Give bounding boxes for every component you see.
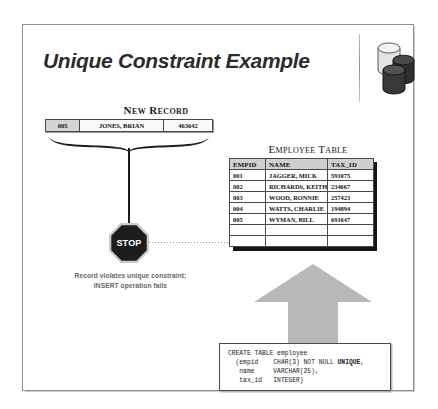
cell-empty (328, 225, 374, 236)
violation-caption-line2: INSERT operation fails (43, 281, 218, 291)
new-record-label: New Record (81, 104, 231, 116)
cell-name: WYMAN, BILL (266, 214, 328, 225)
employee-table-body: 001JAGGER, MICK591075002RICHARDS, KEITH2… (230, 170, 374, 247)
cell-empid: 003 (230, 192, 266, 203)
table-row-empty (230, 225, 374, 236)
table-row: 005WYMAN, BILL691647 (230, 214, 374, 225)
violation-caption-line1: Record violates unique constraint; (43, 271, 218, 281)
cell-empid: 001 (230, 170, 266, 181)
cell-empid: 002 (230, 181, 266, 192)
cell-taxid: 234667 (328, 181, 374, 192)
new-record-taxid: 463642 (164, 120, 212, 131)
new-record-name: JONES, BRIAN (80, 120, 164, 131)
cell-empty (230, 225, 266, 236)
cell-taxid: 257423 (328, 192, 374, 203)
cell-taxid: 194894 (328, 203, 374, 214)
page-title: Unique Constraint Example (43, 49, 310, 73)
cell-empty (328, 236, 374, 247)
cell-taxid: 691647 (328, 214, 374, 225)
column-header-name: NAME (266, 159, 328, 170)
table-row: 002RICHARDS, KEITH234667 (230, 181, 374, 192)
table-header-row: EMPID NAME TAX_ID (230, 159, 374, 170)
new-record-row: 005 JONES, BRIAN 463642 (45, 119, 213, 132)
sql-unique-keyword: UNIQUE (338, 359, 361, 366)
table-row-empty (230, 236, 374, 247)
table-row: 004WATTS, CHARLIE194894 (230, 203, 374, 214)
column-header-empid: EMPID (230, 159, 266, 170)
new-record-empid: 005 (46, 120, 80, 131)
cell-empid: 005 (230, 214, 266, 225)
cell-name: RICHARDS, KEITH (266, 181, 328, 192)
employee-table-title: Employee Table (228, 143, 388, 155)
sql-statement-box: CREATE TABLE employee (empid CHAR(3) NOT… (219, 343, 391, 391)
cell-name: WATTS, CHARLIE (266, 203, 328, 214)
column-header-taxid: TAX_ID (328, 159, 374, 170)
table-row: 001JAGGER, MICK591075 (230, 170, 374, 181)
employee-table-wrapper: EMPID NAME TAX_ID 001JAGGER, MICK5910750… (229, 158, 373, 247)
cell-empty (230, 236, 266, 247)
database-cylinders-icon (373, 37, 417, 99)
cell-name: WOOD, RONNIE (266, 192, 328, 203)
header-divider (359, 34, 360, 102)
cell-empid: 004 (230, 203, 266, 214)
up-arrow-icon (253, 262, 373, 352)
cell-empty (266, 236, 328, 247)
cell-taxid: 591075 (328, 170, 374, 181)
stop-sign-icon (109, 223, 149, 263)
brace-stem (128, 148, 130, 224)
employee-table: EMPID NAME TAX_ID 001JAGGER, MICK5910750… (229, 158, 374, 247)
violation-caption: Record violates unique constraint; INSER… (43, 271, 218, 290)
sql-code: CREATE TABLE employee (empid CHAR(3) NOT… (228, 349, 390, 385)
cell-name: JAGGER, MICK (266, 170, 328, 181)
slide-canvas: Unique Constraint Example New Record 00 (22, 24, 414, 391)
cell-empty (266, 225, 328, 236)
table-row: 003WOOD, RONNIE257423 (230, 192, 374, 203)
